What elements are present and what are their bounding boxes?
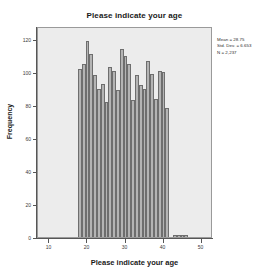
std-dev-label: Std. Dev. = 6.653 — [217, 43, 252, 49]
x-tick-mark — [48, 239, 49, 243]
y-tick-mark — [33, 172, 36, 173]
y-tick-label: 60 — [25, 136, 31, 142]
x-tick-label: 20 — [84, 244, 90, 250]
x-tick-mark — [201, 239, 202, 243]
x-tick-label: 30 — [122, 244, 128, 250]
x-tick-mark — [86, 239, 87, 243]
x-tick-label: 50 — [198, 244, 204, 250]
histogram-chart: Please indicate your age 020406080100120… — [0, 0, 269, 279]
y-tick-mark — [33, 205, 36, 206]
y-tick: 120 — [0, 40, 36, 41]
y-tick: 100 — [0, 73, 36, 74]
x-tick-mark — [125, 239, 126, 243]
x-axis-title: Please indicate your age — [0, 258, 269, 267]
histogram-bar — [184, 235, 188, 237]
y-tick-label: 120 — [23, 37, 31, 43]
chart-title: Please indicate your age — [0, 11, 269, 20]
bars-container — [38, 28, 211, 237]
y-tick-label: 80 — [25, 103, 31, 109]
y-tick-mark — [33, 139, 36, 140]
y-tick-label: 40 — [25, 169, 31, 175]
y-axis-title: Frequency — [6, 82, 13, 162]
x-tick-label: 40 — [160, 244, 166, 250]
y-tick: 20 — [0, 205, 36, 206]
y-tick-label: 100 — [23, 70, 31, 76]
y-axis-line — [36, 27, 37, 239]
y-tick-mark — [33, 73, 36, 74]
x-axis-ticks: 1020304050 — [0, 239, 269, 259]
x-tick-label: 10 — [46, 244, 52, 250]
sample-size-label: N = 2,237 — [217, 50, 252, 56]
y-tick: 40 — [0, 172, 36, 173]
plot-area — [37, 27, 212, 238]
histogram-bar — [165, 108, 169, 237]
y-tick-mark — [33, 40, 36, 41]
y-tick-label: 20 — [25, 202, 31, 208]
statistics-annotation: Mean = 28.75 Std. Dev. = 6.653 N = 2,237 — [217, 37, 252, 56]
y-tick-mark — [33, 106, 36, 107]
x-tick-mark — [163, 239, 164, 243]
